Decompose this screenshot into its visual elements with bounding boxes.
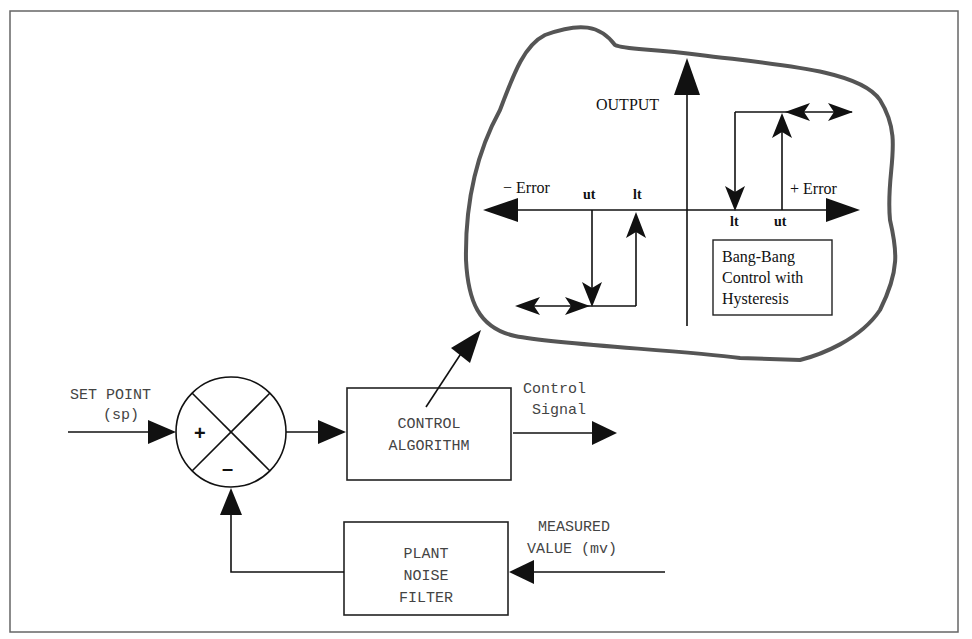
caption-line-1: Bang-Bang bbox=[722, 248, 795, 266]
feedback-arrowhead bbox=[220, 488, 242, 515]
neg-error-arrowhead bbox=[483, 198, 518, 222]
inset-pointer-arrowhead bbox=[451, 330, 481, 363]
caption-line-3: Hysteresis bbox=[722, 290, 789, 308]
set-point-label-line1: SET POINT bbox=[70, 387, 151, 404]
output-axis-arrowhead bbox=[674, 58, 700, 95]
output-axis-label: OUTPUT bbox=[596, 96, 659, 113]
right-lower-threshold-label: lt bbox=[730, 214, 739, 229]
filter-label-line1: PLANT bbox=[403, 546, 448, 563]
neg-error-label: − Error bbox=[503, 179, 550, 196]
right-upper-threshold-label: ut bbox=[774, 214, 787, 229]
filter-label-line2: NOISE bbox=[403, 568, 448, 585]
summing-junction: + – bbox=[176, 377, 286, 487]
set-point-label-line2: (sp) bbox=[103, 407, 139, 424]
hysteresis-inset: OUTPUT − Error + Error ut lt lt ut bbox=[466, 27, 895, 360]
control-signal-arrowhead bbox=[592, 421, 617, 445]
minus-sign: – bbox=[222, 457, 233, 479]
pos-error-label: + Error bbox=[790, 180, 837, 197]
negative-hysteresis-loop bbox=[515, 210, 646, 315]
measured-value-label-line1: MEASURED bbox=[538, 519, 610, 536]
filter-label-line3: FILTER bbox=[399, 590, 453, 607]
control-signal-label-line2: Signal bbox=[532, 402, 586, 419]
control-algorithm-line1: CONTROL bbox=[397, 416, 460, 433]
feedback-line bbox=[231, 512, 344, 572]
left-upper-threshold-label: ut bbox=[583, 187, 596, 202]
plus-sign: + bbox=[194, 422, 206, 444]
error-signal-arrowhead bbox=[318, 420, 346, 444]
left-lower-threshold-label: lt bbox=[633, 187, 642, 202]
caption-line-2: Control with bbox=[722, 269, 803, 286]
pos-error-arrowhead bbox=[826, 198, 860, 222]
measured-value-arrowhead bbox=[509, 560, 534, 584]
set-point-arrowhead bbox=[148, 420, 176, 444]
measured-value-label-line2: VALUE (mv) bbox=[527, 541, 617, 558]
control-algorithm-line2: ALGORITHM bbox=[388, 438, 469, 455]
control-loop-diagram: OUTPUT − Error + Error ut lt lt ut bbox=[0, 0, 972, 639]
control-signal-label-line1: Control bbox=[523, 381, 586, 398]
